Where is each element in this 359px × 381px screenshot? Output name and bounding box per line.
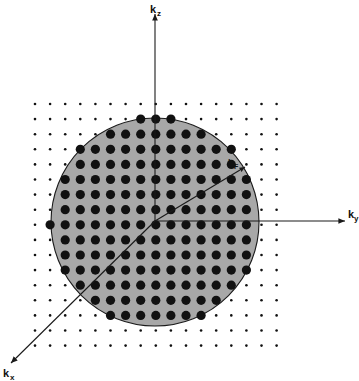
unoccupied-k-state-dot	[49, 178, 52, 181]
occupied-k-state-dot	[61, 235, 70, 244]
unoccupied-k-state-dot	[34, 208, 37, 211]
occupied-k-state-dot	[151, 266, 160, 275]
occupied-k-state-dot	[121, 130, 130, 139]
occupied-k-state-dot	[197, 130, 206, 139]
occupied-k-state-dot	[91, 145, 100, 154]
occupied-k-state-dot	[91, 160, 100, 169]
occupied-k-state-dot	[151, 115, 160, 124]
occupied-k-state-dot	[76, 190, 85, 199]
unoccupied-k-state-dot	[34, 254, 37, 257]
unoccupied-k-state-dot	[260, 239, 263, 242]
unoccupied-k-state-dot	[34, 178, 37, 181]
occupied-k-state-dot	[166, 250, 175, 259]
unoccupied-k-state-dot	[185, 103, 188, 106]
occupied-k-state-dot	[166, 130, 175, 139]
occupied-k-state-dot	[106, 311, 115, 320]
unoccupied-k-state-dot	[260, 148, 263, 151]
occupied-k-state-dot	[106, 190, 115, 199]
fermi-sphere-figure: k z k y k x k F	[0, 0, 359, 381]
unoccupied-k-state-dot	[109, 103, 112, 106]
occupied-k-state-dot	[91, 281, 100, 290]
unoccupied-k-state-dot	[94, 344, 97, 347]
unoccupied-k-state-dot	[275, 178, 278, 181]
occupied-k-state-dot	[121, 250, 130, 259]
occupied-k-state-dot	[197, 175, 206, 184]
unoccupied-k-state-dot	[139, 344, 142, 347]
unoccupied-k-state-dot	[275, 254, 278, 257]
occupied-k-state-dot	[181, 311, 190, 320]
occupied-k-state-dot	[212, 296, 221, 305]
unoccupied-k-state-dot	[124, 103, 127, 106]
occupied-k-state-dot	[76, 145, 85, 154]
occupied-k-state-dot	[197, 281, 206, 290]
occupied-k-state-dot	[136, 311, 145, 320]
occupied-k-state-dot	[166, 311, 175, 320]
unoccupied-k-state-dot	[275, 163, 278, 166]
occupied-k-state-dot	[121, 296, 130, 305]
unoccupied-k-state-dot	[230, 118, 233, 121]
unoccupied-k-state-dot	[215, 133, 218, 136]
unoccupied-k-state-dot	[275, 193, 278, 196]
occupied-k-state-dot	[151, 130, 160, 139]
unoccupied-k-state-dot	[245, 284, 248, 287]
occupied-k-state-dot	[91, 190, 100, 199]
axis-label-ky-subscript: y	[354, 214, 359, 223]
occupied-k-state-dot	[61, 266, 70, 275]
unoccupied-k-state-dot	[124, 118, 127, 121]
occupied-k-state-dot	[136, 145, 145, 154]
unoccupied-k-state-dot	[260, 133, 263, 136]
unoccupied-k-state-dot	[49, 314, 52, 317]
unoccupied-k-state-dot	[215, 118, 218, 121]
occupied-k-state-dot	[136, 296, 145, 305]
unoccupied-k-state-dot	[230, 344, 233, 347]
occupied-k-state-dot	[76, 220, 85, 229]
occupied-k-state-dot	[181, 235, 190, 244]
occupied-k-state-dot	[136, 281, 145, 290]
occupied-k-state-dot	[91, 220, 100, 229]
unoccupied-k-state-dot	[260, 344, 263, 347]
unoccupied-k-state-dot	[275, 344, 278, 347]
fermi-sphere-diagram: k z k y k x k F	[0, 0, 359, 381]
unoccupied-k-state-dot	[49, 133, 52, 136]
occupied-k-state-dot	[121, 160, 130, 169]
occupied-k-state-dot	[242, 175, 251, 184]
unoccupied-k-state-dot	[94, 329, 97, 332]
occupied-k-state-dot	[136, 175, 145, 184]
occupied-k-state-dot	[151, 281, 160, 290]
occupied-k-state-dot	[121, 281, 130, 290]
unoccupied-k-state-dot	[34, 284, 37, 287]
occupied-k-state-dot	[121, 205, 130, 214]
unoccupied-k-state-dot	[94, 103, 97, 106]
unoccupied-k-state-dot	[64, 344, 67, 347]
occupied-k-state-dot	[181, 220, 190, 229]
unoccupied-k-state-dot	[139, 329, 142, 332]
unoccupied-k-state-dot	[275, 314, 278, 317]
occupied-k-state-dot	[242, 205, 251, 214]
unoccupied-k-state-dot	[64, 284, 67, 287]
occupied-k-state-dot	[106, 130, 115, 139]
occupied-k-state-dot	[212, 266, 221, 275]
axis-label-kx-subscript: x	[10, 373, 15, 381]
unoccupied-k-state-dot	[260, 269, 263, 272]
occupied-k-state-dot	[121, 190, 130, 199]
occupied-k-state-dot	[212, 250, 221, 259]
unoccupied-k-state-dot	[64, 314, 67, 317]
occupied-k-state-dot	[212, 235, 221, 244]
unoccupied-k-state-dot	[200, 329, 203, 332]
occupied-k-state-dot	[76, 281, 85, 290]
occupied-k-state-dot	[212, 145, 221, 154]
occupied-k-state-dot	[197, 160, 206, 169]
unoccupied-k-state-dot	[245, 133, 248, 136]
occupied-k-state-dot	[227, 145, 236, 154]
occupied-k-state-dot	[227, 220, 236, 229]
occupied-k-state-dot	[166, 115, 175, 124]
unoccupied-k-state-dot	[260, 208, 263, 211]
occupied-k-state-dot	[197, 235, 206, 244]
occupied-k-state-dot	[151, 220, 160, 229]
unoccupied-k-state-dot	[275, 269, 278, 272]
occupied-k-state-dot	[76, 205, 85, 214]
occupied-k-state-dot	[166, 235, 175, 244]
unoccupied-k-state-dot	[245, 148, 248, 151]
occupied-k-state-dot	[197, 250, 206, 259]
unoccupied-k-state-dot	[34, 329, 37, 332]
